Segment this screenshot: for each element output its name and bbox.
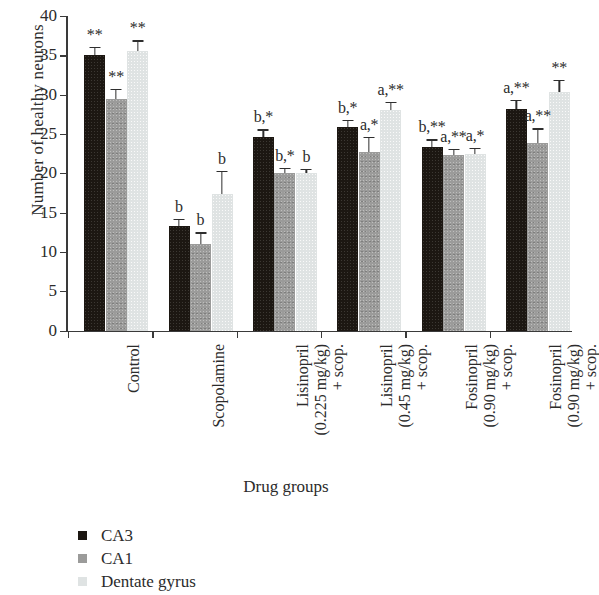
y-tick-label: 25 xyxy=(40,124,57,144)
error-bar xyxy=(549,80,570,93)
error-bar-stem xyxy=(559,80,560,93)
y-tick-label: 40 xyxy=(40,6,57,26)
error-bar xyxy=(106,89,127,98)
error-bar-cap xyxy=(364,137,375,138)
error-bar xyxy=(84,47,105,56)
y-tick-mark xyxy=(60,331,66,332)
error-bar xyxy=(296,169,317,174)
error-bar-cap xyxy=(132,40,143,41)
x-tick-label: Fosinopril(0.90 mg/kg)+ scop. xyxy=(463,344,516,494)
error-bar xyxy=(190,232,211,244)
plot-area: 0510152025303540 ******bbbb,*b,*bb,*a,*a… xyxy=(66,16,572,332)
error-bar-stem xyxy=(221,171,222,195)
x-tick-label-line: (0.45 mg/kg) xyxy=(396,344,414,494)
x-tick-label: Control xyxy=(125,344,143,494)
y-tick-mark xyxy=(60,16,66,17)
significance-annotation: ** xyxy=(130,19,146,37)
significance-annotation: b,* xyxy=(275,147,294,165)
x-tick-label: Scopolamine xyxy=(210,344,228,494)
bar xyxy=(380,110,401,330)
significance-annotation: ** xyxy=(552,59,568,77)
x-tick-label-line: + scop. xyxy=(498,344,516,494)
error-bar-cap xyxy=(217,171,228,172)
x-tick-label-line: Scopolamine xyxy=(210,344,228,494)
error-bar-cap xyxy=(174,219,185,220)
significance-annotation: b xyxy=(218,150,226,168)
significance-annotation: b,* xyxy=(254,108,273,126)
y-tick-label: 30 xyxy=(40,85,57,105)
error-bar-cap xyxy=(511,100,522,101)
error-bar xyxy=(127,40,148,51)
error-bar xyxy=(443,149,464,155)
bar xyxy=(212,194,233,330)
x-axis-title: Drug groups xyxy=(0,477,572,497)
y-tick-label: 5 xyxy=(49,281,58,301)
bar xyxy=(253,137,274,330)
bar xyxy=(337,127,358,331)
error-bar-cap xyxy=(554,80,565,81)
significance-annotation: a,* xyxy=(466,127,485,145)
x-tick-label-line: Fosinopril xyxy=(463,344,481,494)
x-tick-mark xyxy=(68,331,69,338)
y-tick-mark xyxy=(60,134,66,135)
error-bar-cap xyxy=(448,149,459,150)
x-tick-mark xyxy=(237,331,238,338)
x-tick-mark xyxy=(490,331,491,338)
error-bar-cap xyxy=(385,102,396,103)
significance-annotation: a,* xyxy=(360,116,379,134)
x-tick-label-line: Control xyxy=(125,344,143,494)
error-bar-cap xyxy=(342,120,353,121)
bar xyxy=(274,173,295,330)
y-tick-mark xyxy=(60,252,66,253)
error-bar-cap xyxy=(258,129,269,130)
error-bar-stem xyxy=(200,232,201,244)
y-tick-label: 20 xyxy=(40,163,57,183)
x-tick-mark xyxy=(405,331,406,338)
bar xyxy=(527,143,548,331)
significance-annotation: b xyxy=(197,211,205,229)
error-bar-cap xyxy=(279,168,290,169)
x-tick-label-line: + scop. xyxy=(582,344,599,494)
bar xyxy=(443,155,464,330)
y-tick-label: 35 xyxy=(40,45,57,65)
error-bar xyxy=(359,137,380,152)
error-bar-cap xyxy=(89,47,100,48)
x-tick-label-line: (0.90 mg/kg) xyxy=(480,344,498,494)
bar xyxy=(296,173,317,330)
significance-annotation: ** xyxy=(87,26,103,44)
legend-item: CA3 xyxy=(78,524,196,547)
error-bar-stem xyxy=(116,89,117,98)
bar xyxy=(359,152,380,330)
legend-swatch xyxy=(78,577,87,586)
y-tick-mark xyxy=(60,291,66,292)
y-tick-mark xyxy=(60,173,66,174)
error-bar-cap xyxy=(470,148,481,149)
significance-annotation: a,** xyxy=(440,128,466,146)
legend-label: CA3 xyxy=(101,526,133,546)
bar xyxy=(169,226,190,331)
x-tick-label-line: Lisinopril xyxy=(378,344,396,494)
bar xyxy=(127,51,148,330)
legend-swatch xyxy=(78,554,87,563)
error-bar-cap xyxy=(301,169,312,170)
significance-annotation: a,** xyxy=(503,79,529,97)
x-tick-label-line: (0.225 mg/kg) xyxy=(311,344,329,494)
x-tick-label-line: (0.90 mg/kg) xyxy=(564,344,582,494)
error-bar-cap xyxy=(195,232,206,233)
y-axis-line xyxy=(66,16,68,332)
error-bar-cap xyxy=(427,139,438,140)
significance-annotation: b xyxy=(175,198,183,216)
error-bar-stem xyxy=(537,128,538,142)
error-bar xyxy=(465,148,486,154)
y-tick-label: 0 xyxy=(49,321,58,341)
x-tick-label: Lisinopril(0.225 mg/kg)+ scop. xyxy=(294,344,347,494)
bar xyxy=(190,244,211,330)
x-tick-mark xyxy=(152,331,153,338)
error-bar xyxy=(380,102,401,111)
legend-item: Dentate gyrus xyxy=(78,570,196,593)
x-tick-label-line: Fosinopril xyxy=(547,344,565,494)
y-tick-label: 10 xyxy=(40,242,57,262)
error-bar xyxy=(274,168,295,174)
legend-item: CA1 xyxy=(78,547,196,570)
x-tick-label-line: Lisinopril xyxy=(294,344,312,494)
